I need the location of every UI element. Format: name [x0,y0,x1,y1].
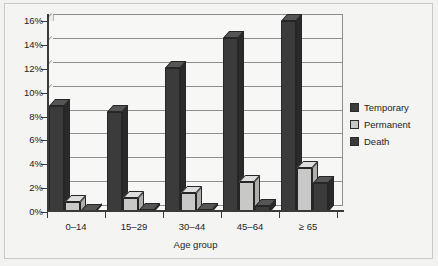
legend-label: Permanent [364,119,410,130]
x-axis-tick-mark [337,212,338,218]
y-axis-tick-label: 8% [3,112,43,122]
y-axis-tick-label: 16% [3,16,43,26]
y-axis-tick-label: 10% [3,88,43,98]
chart-legend: TemporaryPermanentDeath [350,100,410,151]
legend-item-permanent[interactable]: Permanent [350,117,410,132]
x-axis-tick-label: ≥ 65 [273,221,343,232]
legend-item-death[interactable]: Death [350,134,410,149]
y-axis-tick-label: 2% [3,183,43,193]
legend-item-temporary[interactable]: Temporary [350,100,410,115]
legend-label: Death [364,136,389,147]
bar-face [165,68,180,212]
bar-face [281,21,296,212]
bar-face [107,112,122,212]
bar-face [313,183,328,212]
figure-container: 0%2%4%6%8%10%12%14%16% 0–1415–2930–4445–… [0,0,438,266]
x-axis-tick-mark [279,212,280,218]
bar-face [49,106,64,212]
y-axis-tick-label: 4% [3,159,43,169]
y-axis: 0%2%4%6%8%10%12%14%16% [0,0,43,266]
x-axis-tick-mark [221,212,222,218]
bar-side [64,99,70,212]
y-axis-tick-label: 14% [3,40,43,50]
legend-label: Temporary [364,102,409,113]
bar-group [49,21,96,212]
x-axis-line [47,210,344,212]
y-axis-line [47,14,49,212]
bar-group [165,21,212,212]
bar-face [223,38,238,212]
bar-group [107,21,154,212]
legend-swatch-temporary [350,103,359,112]
bar-group [281,21,328,212]
legend-swatch-death [350,137,359,146]
x-axis-tick-mark [163,212,164,218]
y-axis-tick-label: 6% [3,135,43,145]
bar-death [313,183,328,212]
x-axis-tick-mark [47,212,48,218]
y-axis-tick-label: 0% [3,207,43,217]
x-axis-title: Age group [47,239,344,250]
legend-swatch-permanent [350,120,359,129]
bar-face [239,182,254,212]
bar-temporary [49,106,64,212]
bar-temporary [223,38,238,212]
bar-temporary [165,68,180,212]
y-axis-tick-label: 12% [3,64,43,74]
bar-face [297,168,312,212]
bar-group [223,21,270,212]
x-axis-tick-mark [105,212,106,218]
bar-permanent [239,182,254,212]
bar-permanent [297,168,312,212]
plot-area [47,21,337,212]
bar-temporary [107,112,122,212]
bar-temporary [281,21,296,212]
